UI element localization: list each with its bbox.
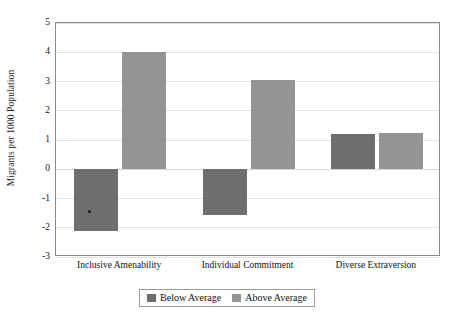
legend-entry: Above Average <box>232 292 307 303</box>
bar <box>331 134 375 169</box>
x-axis-tick-label: Individual Commitment <box>202 260 294 270</box>
x-axis-tick-label: Diverse Extraversion <box>336 260 416 270</box>
legend-entry: Below Average <box>147 292 221 303</box>
chart-figure: Migrants per 1000 Population 543210-1-2-… <box>0 0 454 319</box>
bar <box>251 80 295 169</box>
bar <box>379 133 423 170</box>
legend-swatch <box>147 294 156 302</box>
gridline <box>56 110 439 111</box>
plot-inner <box>56 23 439 255</box>
y-axis-tick-label: 4 <box>19 46 55 56</box>
y-axis-tick-label: 0 <box>19 163 55 173</box>
gridline <box>56 23 439 24</box>
gridline <box>56 52 439 53</box>
plot-area <box>55 22 440 256</box>
x-axis-tick-label: Inclusive Amenability <box>77 260 161 270</box>
bar <box>74 169 118 230</box>
bar <box>203 169 247 214</box>
gridline <box>56 257 439 258</box>
y-axis-tick-label: -2 <box>19 222 55 232</box>
x-axis-tick-labels: Inclusive AmenabilityIndividual Commitme… <box>55 260 440 278</box>
y-axis-tick-label: 1 <box>19 134 55 144</box>
legend-label: Above Average <box>245 292 307 303</box>
y-axis-tick-label: -1 <box>19 193 55 203</box>
chart-legend: Below AverageAbove Average <box>139 289 315 307</box>
y-axis-tick-label: 2 <box>19 105 55 115</box>
y-axis-tick-label: -3 <box>19 251 55 261</box>
gridline <box>56 81 439 82</box>
legend-swatch <box>232 294 241 302</box>
legend-label: Below Average <box>160 292 221 303</box>
bar <box>122 52 166 169</box>
y-axis-tick-label: 3 <box>19 76 55 86</box>
y-axis-tick-label: 5 <box>19 17 55 27</box>
y-axis-tick-labels: 543210-1-2-3 <box>0 22 55 256</box>
